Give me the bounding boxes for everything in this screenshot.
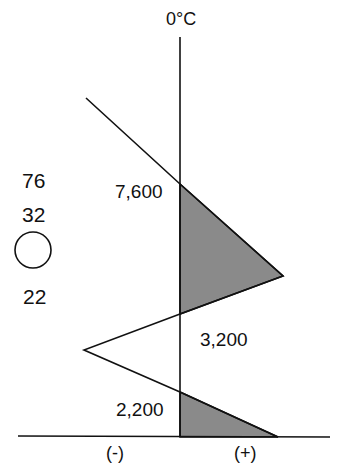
station-dewpoint: 32 xyxy=(22,204,45,225)
freezing-level-diagram xyxy=(0,0,343,472)
level-label-lower: 2,200 xyxy=(116,400,164,419)
station-temperature: 76 xyxy=(22,170,45,191)
sky-cover-circle-icon xyxy=(15,232,51,268)
station-bottom-value: 22 xyxy=(23,286,46,307)
negative-label: (-) xyxy=(106,444,124,462)
level-label-upper: 7,600 xyxy=(115,182,163,201)
axis-title: 0°C xyxy=(166,10,196,28)
positive-label: (+) xyxy=(234,444,257,462)
level-label-middle: 3,200 xyxy=(200,330,248,349)
ground-baseline xyxy=(18,436,330,437)
